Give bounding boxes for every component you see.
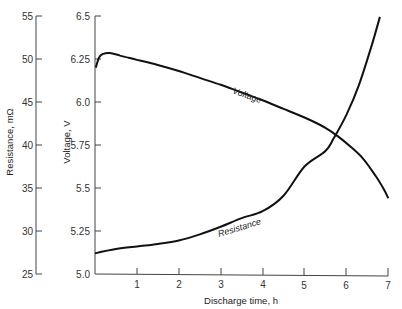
- time-tick-7: 7: [385, 280, 391, 291]
- time-tick-4: 4: [260, 279, 266, 290]
- resistance-tick-55: 55: [22, 11, 34, 22]
- resistance-tick-35: 35: [22, 183, 34, 194]
- time-tick-2: 2: [176, 279, 182, 290]
- resistance-axis-title: Resistance, mΩ: [4, 108, 15, 175]
- voltage-tick-5.5: 5.5: [76, 183, 90, 194]
- voltage-axis: 6.5 6.25 6.0 5.75 5.5 5.25 5.0 Voltage, …: [61, 11, 101, 280]
- time-tick-5: 5: [301, 280, 307, 291]
- voltage-tick-5.0: 5.0: [76, 269, 90, 280]
- time-tick-3: 3: [218, 279, 224, 290]
- resistance-tick-45: 45: [22, 97, 34, 108]
- time-axis: 1 2 3 4 5 6 7 Discharge time, h: [95, 268, 391, 306]
- resistance-tick-50: 50: [22, 54, 34, 65]
- time-tick-6: 6: [343, 280, 349, 291]
- time-tick-1: 1: [134, 279, 140, 290]
- voltage-tick-6.25: 6.25: [71, 54, 91, 65]
- voltage-tick-5.25: 5.25: [71, 226, 91, 237]
- voltage-curve-label: Voltage: [231, 85, 263, 105]
- voltage-axis-title: Voltage, V: [61, 120, 72, 164]
- voltage-tick-6.5: 6.5: [76, 11, 90, 22]
- dual-axis-line-chart: 55 50 45 40 35 30 25 Resistance, mΩ 6.5 …: [0, 0, 402, 309]
- resistance-axis: 55 50 45 40 35 30 25 Resistance, mΩ: [4, 11, 42, 280]
- time-axis-title: Discharge time, h: [204, 295, 278, 306]
- resistance-tick-25: 25: [22, 269, 34, 280]
- voltage-tick-5.75: 5.75: [71, 140, 91, 151]
- voltage-tick-6.0: 6.0: [76, 97, 90, 108]
- resistance-tick-30: 30: [22, 226, 34, 237]
- voltage-curve: [96, 53, 389, 198]
- resistance-tick-40: 40: [22, 140, 34, 151]
